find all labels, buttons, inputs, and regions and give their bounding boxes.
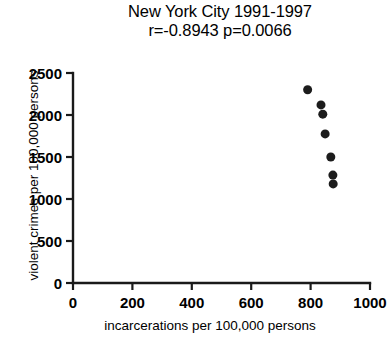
data-point [326, 153, 335, 162]
y-tick-label: 1000 [29, 191, 62, 208]
data-point [303, 85, 312, 94]
x-tick-label: 600 [239, 294, 264, 311]
x-tick-label: 0 [69, 294, 77, 311]
y-tick-label: 0 [54, 275, 62, 292]
data-point [329, 179, 338, 188]
y-tick-label: 2500 [29, 65, 62, 82]
y-tick-label: 2000 [29, 107, 62, 124]
x-tick-label: 800 [298, 294, 323, 311]
x-tick-label: 400 [179, 294, 204, 311]
data-points-layer [303, 85, 338, 188]
chart-figure: New York City 1991-1997 r=-0.8943 p=0.00… [0, 0, 392, 346]
data-point [328, 171, 337, 180]
x-tick-label: 200 [120, 294, 145, 311]
y-axis-ticks: 05001000150020002500 [29, 65, 73, 292]
x-tick-label: 1000 [353, 294, 386, 311]
y-tick-label: 1500 [29, 149, 62, 166]
scatter-plot-canvas: 05001000150020002500 02004006008001000 [0, 0, 392, 346]
data-point [317, 100, 326, 109]
data-point [318, 110, 327, 119]
y-tick-label: 500 [37, 233, 62, 250]
data-point [321, 129, 330, 138]
x-axis-ticks: 02004006008001000 [69, 283, 387, 311]
